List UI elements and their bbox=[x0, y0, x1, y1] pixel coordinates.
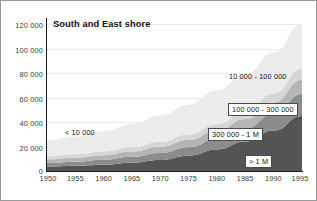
y-tick-label: 80 000 bbox=[19, 70, 43, 79]
series-annotation-label: > 1 M bbox=[245, 155, 272, 168]
chart-figure: 0 20 000 40 000 60 000 80 000 100 000 12… bbox=[0, 0, 317, 201]
x-tick-label: 1970 bbox=[152, 174, 169, 183]
x-tick-label: 1955 bbox=[67, 174, 84, 183]
y-axis-line bbox=[46, 18, 47, 172]
x-axis-tick-labels: 1950 1955 1960 1965 1970 1975 1980 1985 … bbox=[1, 174, 317, 188]
y-tick-label: 40 000 bbox=[19, 119, 43, 128]
x-tick-label: 1995 bbox=[292, 174, 309, 183]
y-tick-label: 60 000 bbox=[19, 95, 43, 104]
x-tick-label: 1975 bbox=[180, 174, 197, 183]
y-tick-label: 120 000 bbox=[15, 21, 43, 30]
x-tick-label: 1960 bbox=[95, 174, 112, 183]
x-tick-label: 1965 bbox=[123, 174, 140, 183]
y-axis-tick-labels: 0 20 000 40 000 60 000 80 000 100 000 12… bbox=[1, 1, 43, 201]
series-annotation-label: 10 000 - 100 000 bbox=[229, 73, 287, 80]
plot-area: < 10 00010 000 - 100 000100 000 - 300 00… bbox=[47, 18, 302, 171]
series-annotation-label: 300 000 - 1 M bbox=[208, 128, 263, 141]
y-tick-label: 20 000 bbox=[19, 144, 43, 153]
x-tick-label: 1980 bbox=[208, 174, 225, 183]
x-axis-line bbox=[46, 171, 303, 172]
x-tick-label: 1990 bbox=[265, 174, 282, 183]
series-annotation-label: 100 000 - 300 000 bbox=[228, 103, 298, 116]
x-tick-label: 1985 bbox=[237, 174, 254, 183]
stacked-area-series bbox=[47, 18, 302, 171]
series-annotation-label: < 10 000 bbox=[65, 129, 95, 136]
y-tick-label: 100 000 bbox=[15, 46, 43, 55]
page-title: South and East shore bbox=[53, 19, 151, 29]
x-tick-label: 1950 bbox=[40, 174, 57, 183]
